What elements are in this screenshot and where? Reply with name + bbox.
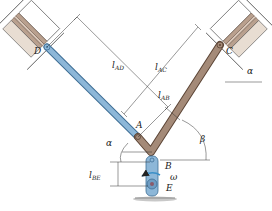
- label-c: C: [226, 46, 233, 56]
- master-link-abc: [136, 42, 224, 152]
- piston-c: [206, 0, 272, 70]
- angle-alpha-right: α: [247, 66, 253, 76]
- dim-l-be: lBE: [89, 170, 101, 181]
- label-e: E: [165, 183, 173, 193]
- label-a: A: [135, 120, 143, 130]
- omega-label: ω: [170, 172, 178, 182]
- angle-alpha-left: α: [106, 138, 112, 148]
- connecting-rod-ad: [44, 44, 138, 137]
- pin-b: [150, 158, 154, 162]
- v-engine-mechanism-diagram: D C A B E lAD lAC lAB lBE α α β ω: [0, 0, 272, 211]
- label-b: B: [164, 161, 172, 171]
- ground-support: [133, 197, 177, 202]
- angle-beta: β: [199, 134, 205, 144]
- label-d: D: [33, 46, 41, 56]
- dim-l-ab: lAB: [158, 90, 170, 101]
- dim-l-ac: lAC: [155, 62, 167, 73]
